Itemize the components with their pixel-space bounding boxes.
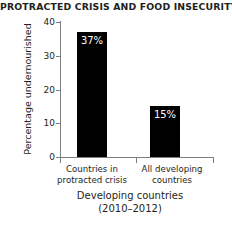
y-axis-title: Percentage undernourished <box>22 21 33 157</box>
chart-figure: PROTRACTED CRISIS AND FOOD INSECURITY 0 … <box>0 0 232 227</box>
y-tick-40 <box>56 22 61 23</box>
bar-value-label-1: 15% <box>150 109 180 120</box>
bar-value-label-0: 37% <box>77 35 107 46</box>
x-axis-line <box>60 157 214 158</box>
x-category-label-0-line1: Countries in <box>66 164 118 174</box>
x-category-label-0: Countries in protracted crisis <box>52 164 132 185</box>
y-tick-20 <box>56 90 61 91</box>
x-tick-left <box>60 158 61 163</box>
x-category-label-1-line1: All developing <box>142 164 203 174</box>
x-category-label-0-line2: protracted crisis <box>57 175 127 185</box>
x-category-label-1-line2: countries <box>152 175 192 185</box>
bar-all-developing-countries: 15% <box>150 106 180 157</box>
x-tick-right <box>213 158 214 163</box>
x-axis-title-line2: (2010–2012) <box>40 203 220 216</box>
y-tick-30 <box>56 56 61 57</box>
bar-countries-in-protracted-crisis: 37% <box>77 32 107 157</box>
x-category-label-1: All developing countries <box>132 164 212 185</box>
x-axis-title-line1: Developing countries <box>77 190 183 201</box>
x-tick-middle <box>136 158 137 163</box>
x-axis-title: Developing countries (2010–2012) <box>40 190 220 215</box>
chart-title: PROTRACTED CRISIS AND FOOD INSECURITY <box>0 0 232 13</box>
y-tick-10 <box>56 123 61 124</box>
